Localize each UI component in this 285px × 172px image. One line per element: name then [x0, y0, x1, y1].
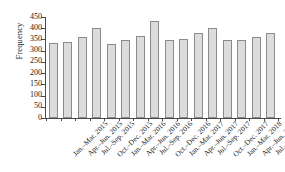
y-tick-label: 100 [30, 90, 42, 100]
y-tick-label: 400 [30, 23, 42, 33]
bar [165, 40, 174, 118]
y-tick-label: 450 [30, 12, 42, 22]
bar [266, 33, 275, 118]
bar [194, 33, 203, 119]
bar [107, 44, 116, 119]
y-tick-label: 0 [38, 113, 42, 123]
y-tick-label: 350 [30, 34, 42, 44]
y-tick-label: 150 [30, 79, 42, 89]
bar [121, 40, 130, 118]
y-tick-label: 200 [30, 68, 42, 78]
bar [252, 37, 261, 118]
x-axis-labels: Jan.–Mar. 2015Apr.–Jun. 2015Jul.–Sep. 20… [45, 120, 285, 172]
bar-chart-figure: Frequency 050100150200250300350400450 Ja… [0, 0, 285, 172]
bar-series [46, 17, 281, 118]
bar [150, 21, 159, 118]
y-tick-label: 50 [34, 101, 42, 111]
bar [92, 28, 101, 118]
bar [136, 36, 145, 118]
bar [49, 43, 58, 118]
bar [63, 42, 72, 118]
y-tick-label: 250 [30, 56, 42, 66]
bar [237, 40, 246, 118]
bar [208, 28, 217, 118]
y-tick-label: 300 [30, 45, 42, 55]
bar [78, 37, 87, 118]
bar [179, 39, 188, 118]
bar [223, 40, 232, 118]
plot-area: 050100150200250300350400450 [45, 17, 277, 118]
y-axis-title: Frequency [14, 0, 24, 86]
